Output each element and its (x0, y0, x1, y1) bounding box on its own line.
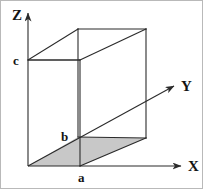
shaded-base-face (28, 137, 146, 166)
dimension-label-a: a (78, 171, 85, 184)
x-axis-label: X (188, 159, 199, 174)
dimension-label-b: b (61, 130, 68, 143)
y-axis-label: Y (181, 79, 192, 94)
coordinate-system-diagram (0, 0, 204, 190)
dimension-label-c: c (13, 54, 19, 67)
box-edge-top-right (80, 29, 146, 60)
figure-container: Z Y X c b a (0, 0, 204, 190)
box-edge-top-left (28, 29, 78, 60)
z-axis-label: Z (12, 8, 22, 23)
